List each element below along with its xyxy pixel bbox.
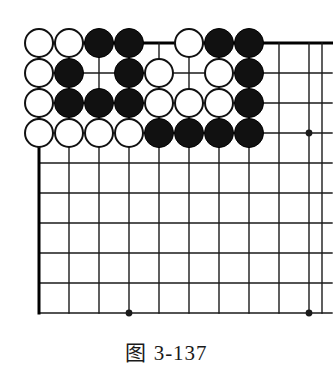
black-stone[interactable] xyxy=(234,118,264,148)
black-stone[interactable] xyxy=(234,88,264,118)
black-stone[interactable] xyxy=(114,58,144,88)
white-stone[interactable] xyxy=(54,28,84,58)
white-stone[interactable] xyxy=(24,118,54,148)
white-stone[interactable] xyxy=(144,58,174,88)
black-stone[interactable] xyxy=(174,118,204,148)
black-stone[interactable] xyxy=(114,28,144,58)
black-stone[interactable] xyxy=(84,88,114,118)
black-stone[interactable] xyxy=(204,28,234,58)
white-stone[interactable] xyxy=(84,118,114,148)
white-stone[interactable] xyxy=(24,58,54,88)
black-stone[interactable] xyxy=(114,88,144,118)
white-stone[interactable] xyxy=(54,118,84,148)
go-board[interactable] xyxy=(0,0,333,335)
black-stone[interactable] xyxy=(204,118,234,148)
white-stone[interactable] xyxy=(174,28,204,58)
white-stone[interactable] xyxy=(24,28,54,58)
white-stone[interactable] xyxy=(174,88,204,118)
black-stone[interactable] xyxy=(234,28,264,58)
black-stone[interactable] xyxy=(234,58,264,88)
white-stone[interactable] xyxy=(204,88,234,118)
black-stone[interactable] xyxy=(144,118,174,148)
figure-caption: 图 3-137 xyxy=(0,336,333,366)
white-stone[interactable] xyxy=(144,88,174,118)
white-stone[interactable] xyxy=(204,58,234,88)
black-stone[interactable] xyxy=(84,28,114,58)
white-stone[interactable] xyxy=(24,88,54,118)
white-stone[interactable] xyxy=(114,118,144,148)
figure-container: 图 3-137 xyxy=(0,0,333,380)
black-stone[interactable] xyxy=(54,88,84,118)
black-stone[interactable] xyxy=(54,58,84,88)
stone-layer xyxy=(0,0,333,335)
